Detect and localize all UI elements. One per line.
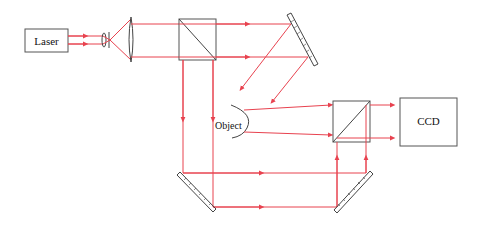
beam-splitter-1: [179, 19, 216, 60]
laser-beams: [68, 36, 103, 44]
beam-splitter-2-diagonal: [333, 101, 370, 142]
laser-label: Laser: [34, 35, 59, 47]
mirror-3: [334, 171, 373, 213]
beam-splitter-1-diagonal: [179, 19, 216, 60]
mirror-2-icon: [177, 172, 216, 212]
focusing-lens-icon: [102, 33, 106, 47]
object: Object: [215, 105, 331, 138]
ccd-beams: [370, 105, 393, 138]
beam-splitter-2: [333, 101, 370, 142]
laser: Laser: [25, 29, 68, 52]
ccd-label: CCD: [417, 115, 440, 127]
mirror-1-icon: [287, 13, 318, 66]
optical-setup-diagram: Laser: [0, 0, 482, 227]
mirror-2: [177, 172, 216, 212]
mirror-3-icon: [334, 171, 373, 213]
object-beam-path: [216, 24, 308, 102]
object-label: Object: [215, 120, 242, 131]
mirror-1: [287, 13, 318, 66]
ccd: CCD: [400, 98, 457, 146]
spatial-filter: [102, 19, 131, 60]
